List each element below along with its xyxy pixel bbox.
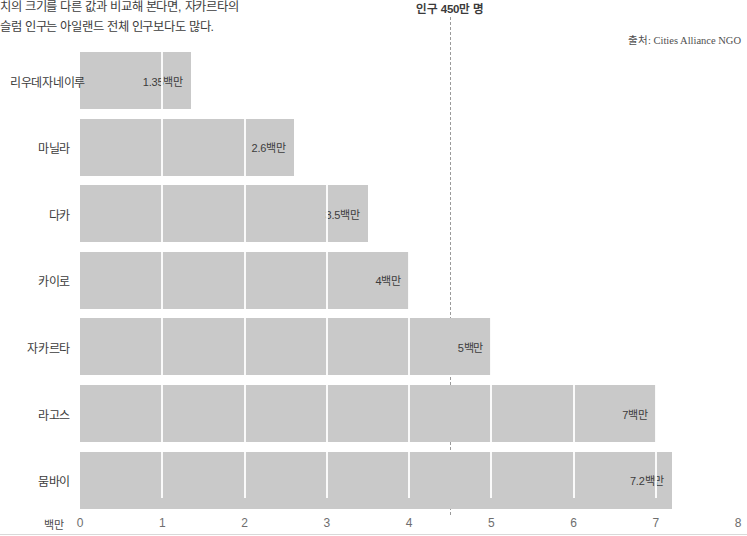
gridline-6 (573, 52, 575, 498)
bar-value-label: 7.2백만 (630, 472, 664, 488)
bar[interactable] (80, 452, 672, 509)
bar-value-label: 4백만 (375, 272, 401, 288)
category-label: 마닐라 (10, 139, 70, 156)
x-axis-tick-6: 6 (570, 516, 577, 530)
bar-row[interactable]: 2.6백만마닐라 (80, 119, 294, 176)
x-axis-line (0, 534, 747, 535)
bar-value-label: 3.5백만 (326, 206, 360, 222)
category-label: 리우데자네이루 (10, 72, 70, 89)
bar-value-label: 7백만 (622, 406, 648, 422)
bar-value-label: 2.6백만 (252, 139, 286, 155)
gridline-5 (490, 52, 492, 498)
gridline-3 (326, 52, 328, 498)
bar-value-label: 5백만 (458, 339, 484, 355)
gridline-2 (244, 52, 246, 498)
bar-row[interactable]: 3.5백만다카 (80, 185, 368, 242)
category-label: 다카 (10, 205, 70, 222)
category-label: 뭄바이 (10, 472, 70, 489)
caption-text: 치의 크기를 다른 값과 비교해 본다면, 자카르타의 슬럼 인구는 아일랜드 … (0, 0, 360, 37)
gridline-4 (408, 52, 410, 498)
bar-row[interactable]: 5백만자카르타 (80, 318, 491, 375)
chart-plot-area: 1.35백만리우데자네이루2.6백만마닐라3.5백만다카4백만카이로5백만자카르… (80, 52, 738, 498)
bar-row[interactable]: 7.2백만뭄바이 (80, 452, 672, 509)
x-axis-tick-2: 2 (241, 516, 248, 530)
gridline-7 (655, 52, 657, 498)
x-axis-tick-5: 5 (488, 516, 495, 530)
bar[interactable] (80, 385, 656, 442)
bar-row[interactable]: 7백만라고스 (80, 385, 656, 442)
bar-row[interactable]: 1.35백만리우데자네이루 (80, 52, 191, 109)
bar[interactable] (80, 318, 491, 375)
x-axis-tick-0: 0 (77, 516, 84, 530)
caption-line-2: 슬럼 인구는 아일랜드 전체 인구보다도 많다. (0, 17, 360, 37)
x-axis-tick-3: 3 (323, 516, 330, 530)
x-axis-tick-1: 1 (159, 516, 166, 530)
category-label: 카이로 (10, 272, 70, 289)
category-label: 라고스 (10, 405, 70, 422)
x-axis-tick-7: 7 (652, 516, 659, 530)
x-axis-unit-label: 백만 (44, 516, 63, 532)
caption-line-1: 치의 크기를 다른 값과 비교해 본다면, 자카르타의 (0, 0, 360, 17)
source-attribution: 출처: Cities Alliance NGO (628, 32, 741, 47)
category-label: 자카르타 (10, 338, 70, 355)
gridline-8 (737, 52, 739, 498)
x-axis-tick-8: 8 (735, 516, 742, 530)
x-axis-tick-4: 4 (406, 516, 413, 530)
threshold-annotation-label: 인구 450만 명 (416, 0, 484, 16)
gridline-1 (161, 52, 163, 498)
